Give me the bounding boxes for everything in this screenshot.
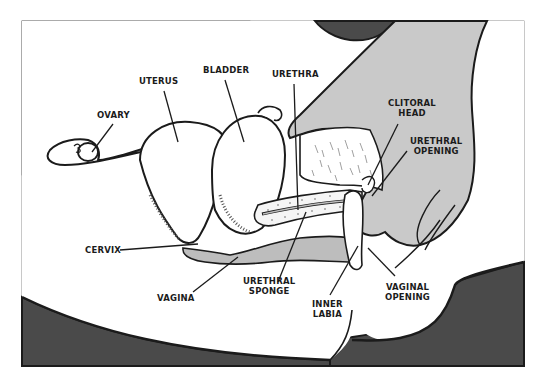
label-vagina: VAGINA (157, 293, 195, 303)
label-uterus: UTERUS (139, 76, 178, 86)
label-ovary: OVARY (97, 110, 130, 120)
label-inner-labia-line1: INNER (312, 299, 343, 309)
label-urethral-opening: URETHRAL OPENING (410, 136, 462, 156)
anatomy-illustration (0, 0, 539, 389)
label-urethral-opening-line1: URETHRAL (410, 136, 462, 146)
label-urethra: URETHRA (272, 69, 319, 79)
label-vaginal-opening-line1: VAGINAL (385, 282, 430, 292)
label-inner-labia: INNER LABIA (312, 299, 343, 319)
label-urethral-sponge-line2: SPONGE (243, 286, 295, 296)
label-cervix: CERVIX (85, 245, 121, 255)
label-bladder: BLADDER (203, 65, 249, 75)
label-clitoral-head: CLITORAL HEAD (388, 98, 436, 118)
label-clitoral-head-line1: CLITORAL (388, 98, 436, 108)
label-vaginal-opening: VAGINAL OPENING (385, 282, 430, 302)
label-urethral-opening-line2: OPENING (410, 146, 462, 156)
label-urethral-sponge: URETHRAL SPONGE (243, 276, 295, 296)
ovary (78, 143, 98, 161)
label-clitoral-head-line2: HEAD (388, 108, 436, 118)
label-inner-labia-line2: LABIA (312, 309, 343, 319)
label-urethral-sponge-line1: URETHRAL (243, 276, 295, 286)
label-vaginal-opening-line2: OPENING (385, 292, 430, 302)
